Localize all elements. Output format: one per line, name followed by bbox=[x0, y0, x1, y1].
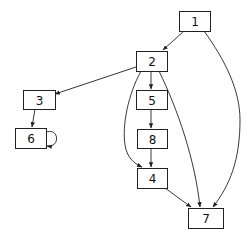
node-5: 5 bbox=[137, 91, 168, 110]
edge-1-2 bbox=[163, 31, 184, 50]
node-label: 7 bbox=[202, 212, 210, 226]
edge-2-4 bbox=[124, 71, 142, 167]
edge-2-3 bbox=[55, 67, 136, 94]
node-6: 6 bbox=[16, 129, 47, 149]
node-label: 5 bbox=[148, 94, 156, 108]
node-8: 8 bbox=[138, 130, 168, 149]
node-label: 2 bbox=[148, 55, 156, 69]
node-7: 7 bbox=[189, 209, 224, 229]
node-2: 2 bbox=[137, 52, 168, 72]
node-3: 3 bbox=[24, 91, 56, 110]
node-label: 3 bbox=[36, 94, 44, 108]
edge-1-7 bbox=[204, 31, 240, 207]
node-4: 4 bbox=[138, 169, 168, 189]
node-1: 1 bbox=[180, 12, 211, 32]
node-label: 1 bbox=[191, 15, 199, 29]
node-label: 6 bbox=[27, 132, 35, 146]
edge-3-6 bbox=[32, 109, 35, 127]
edge-6-6 bbox=[46, 131, 57, 146]
node-label: 8 bbox=[149, 133, 157, 147]
edge-4-7 bbox=[165, 188, 191, 207]
graph-canvas: 12356847 bbox=[0, 0, 251, 240]
node-label: 4 bbox=[149, 172, 157, 186]
nodes: 12356847 bbox=[16, 12, 224, 229]
